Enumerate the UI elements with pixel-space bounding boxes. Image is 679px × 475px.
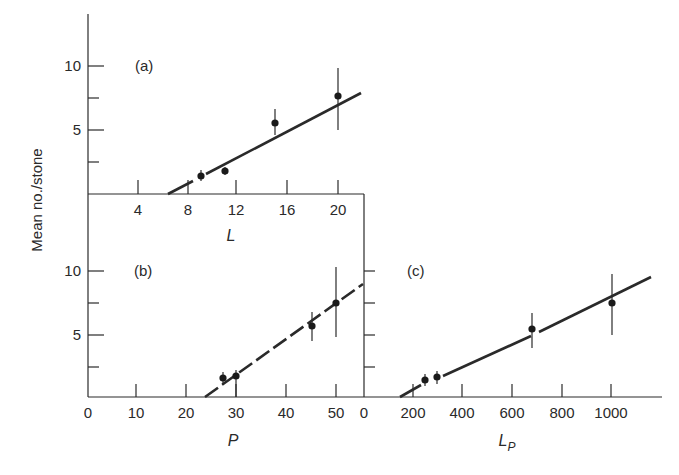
panel-a [88, 14, 364, 397]
panel-a-ytick-10: 10 [64, 57, 81, 74]
panel-b-xtick: 40 [278, 404, 295, 421]
panel-b-ytick-10: 10 [64, 262, 81, 279]
panel-b-xtick: 0 [84, 404, 92, 421]
panel-c-xtick: 200 [400, 404, 425, 421]
panel-c-xlabel: LP [499, 432, 516, 454]
panel-c [364, 271, 662, 397]
svg-text:Mean no./stone: Mean no./stone [28, 148, 45, 251]
panel-a-xlabel: L [227, 227, 236, 244]
panel-b [88, 194, 364, 397]
panel-b-xtick: 10 [128, 404, 145, 421]
panel-a-ytick-5: 5 [73, 121, 81, 138]
panel-a-xtick: 16 [279, 201, 296, 218]
panel-c-label: (c) [407, 262, 425, 279]
panel-a-label: (a) [135, 57, 153, 74]
y-axis-title: Mean no./stone [28, 148, 45, 251]
panel-b-xtick: 30 [228, 404, 245, 421]
panel-c-xtick: 400 [449, 404, 474, 421]
panel-b-label: (b) [134, 262, 152, 279]
figure: Mean no./stone 10 5 4 8 12 16 20 L (a) [0, 0, 679, 475]
panel-a-xtick: 4 [134, 201, 142, 218]
panel-b-points [219, 299, 339, 381]
panel-c-xtick: 600 [499, 404, 524, 421]
panel-a-xtick: 20 [330, 201, 347, 218]
panel-b-xtick: 20 [178, 404, 195, 421]
panel-b-xtick: 50 [328, 404, 345, 421]
panel-a-xtick: 12 [228, 201, 245, 218]
panel-b-ytick-5: 5 [73, 326, 81, 343]
panel-c-xtick: 1000 [594, 404, 627, 421]
panel-c-xtick: 800 [549, 404, 574, 421]
panel-a-xtick: 8 [184, 201, 192, 218]
panel-b-xlabel: P [228, 432, 239, 449]
panel-c-xtick: 0 [360, 404, 368, 421]
